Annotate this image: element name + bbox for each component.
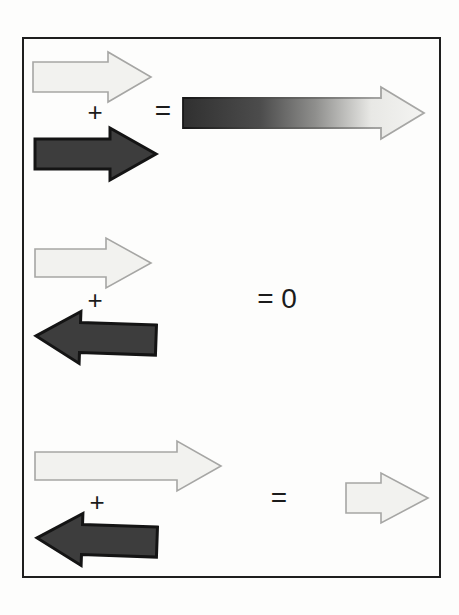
row2-plus-sign: + <box>87 287 102 313</box>
page: + = + = 0 + = <box>0 0 459 615</box>
figure-frame <box>22 37 441 578</box>
row1-equals-sign: = <box>155 97 171 125</box>
row1-plus-sign: + <box>87 99 102 125</box>
row2-equals-zero: = 0 <box>257 285 297 313</box>
row3-plus-sign: + <box>89 489 104 515</box>
row3-equals-sign: = <box>271 484 287 512</box>
